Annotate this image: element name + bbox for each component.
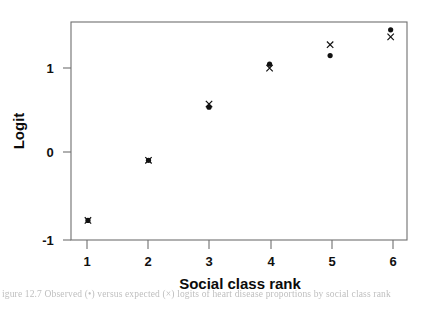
y-tick-label-1: 1 [46, 61, 53, 76]
x-tick-label-6: 6 [389, 254, 396, 269]
scatter-plot: 1 0 -1 1 2 3 4 5 6 Social class rank Log… [0, 0, 426, 311]
caption-text: igure 12.7 Observed (•) versus expected … [2, 289, 426, 299]
x-axis-ticks [87, 240, 393, 249]
x-tick-label-3: 3 [205, 254, 212, 269]
plot-frame [71, 22, 407, 240]
data-point-observed [328, 53, 333, 58]
figure-container: 1 0 -1 1 2 3 4 5 6 Social class rank Log… [0, 0, 426, 311]
y-tick-label-0: 0 [46, 145, 53, 160]
y-axis-ticks [63, 68, 71, 240]
x-tick-label-5: 5 [328, 254, 335, 269]
x-tick-label-2: 2 [144, 254, 151, 269]
figure-caption: igure 12.7 Observed (•) versus expected … [0, 288, 426, 311]
data-point-observed [388, 27, 393, 32]
data-point-fitted [387, 34, 393, 40]
x-tick-label-1: 1 [83, 254, 90, 269]
y-axis-title: Logit [10, 113, 27, 150]
data-markers [85, 27, 394, 223]
y-tick-label-minus-1: -1 [42, 233, 54, 248]
x-tick-label-4: 4 [267, 254, 275, 269]
data-point-fitted [327, 41, 333, 47]
